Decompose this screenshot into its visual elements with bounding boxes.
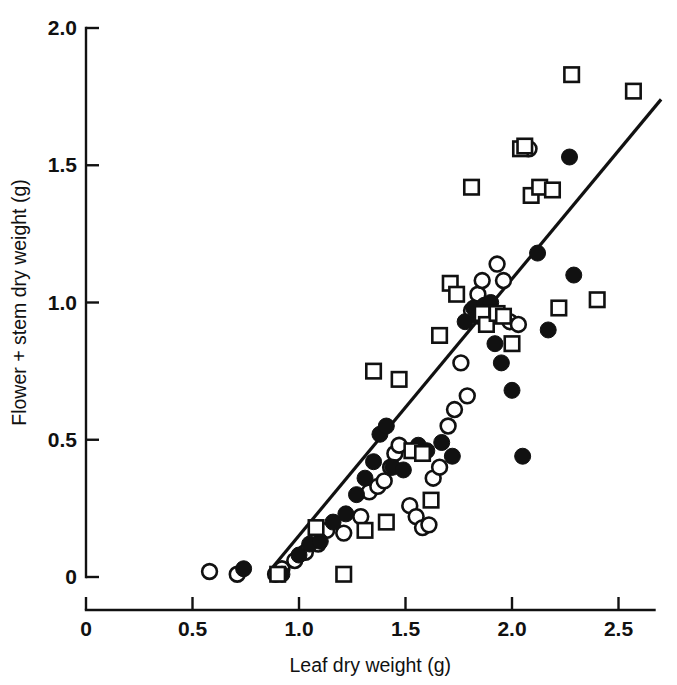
marker-open-circle bbox=[460, 388, 475, 403]
marker-open-circle bbox=[511, 317, 526, 332]
x-tick-label: 2.5 bbox=[604, 617, 634, 640]
marker-open-square bbox=[432, 328, 447, 343]
y-axis-title: Flower + stem dry weight (g) bbox=[8, 179, 30, 426]
series-open-circle bbox=[202, 141, 536, 581]
marker-open-circle bbox=[453, 355, 468, 370]
marker-filled-circle bbox=[562, 149, 578, 165]
y-tick-label: 1.5 bbox=[48, 153, 78, 176]
scatter-plot-figure: 00.51.01.52.000.51.01.52.02.5Leaf dry we… bbox=[0, 0, 677, 685]
marker-filled-circle bbox=[530, 245, 546, 261]
marker-open-square bbox=[518, 139, 533, 154]
y-tick-label: 0.5 bbox=[48, 428, 78, 451]
x-axis-title: Leaf dry weight (g) bbox=[290, 654, 452, 676]
marker-open-square bbox=[270, 567, 285, 582]
y-tick-label: 2.0 bbox=[48, 16, 77, 39]
y-tick-label: 1.0 bbox=[48, 291, 77, 314]
marker-filled-circle bbox=[493, 355, 509, 371]
x-tick-label: 1.5 bbox=[391, 617, 421, 640]
marker-filled-circle bbox=[236, 561, 252, 577]
marker-filled-circle bbox=[349, 487, 365, 503]
marker-open-circle bbox=[202, 564, 217, 579]
x-tick-label: 0 bbox=[80, 617, 92, 640]
marker-filled-circle bbox=[378, 418, 394, 434]
marker-open-square bbox=[449, 287, 464, 302]
marker-open-square bbox=[309, 520, 324, 535]
marker-filled-circle bbox=[395, 462, 411, 478]
marker-filled-circle bbox=[338, 506, 354, 522]
y-tick-label: 0 bbox=[65, 565, 77, 588]
marker-open-circle bbox=[432, 460, 447, 475]
x-tick-label: 0.5 bbox=[178, 617, 208, 640]
marker-filled-circle bbox=[444, 448, 460, 464]
marker-filled-circle bbox=[566, 267, 582, 283]
marker-open-circle bbox=[447, 402, 462, 417]
marker-filled-circle bbox=[434, 434, 450, 450]
regression-line bbox=[269, 99, 661, 571]
data-points-group bbox=[202, 67, 641, 582]
marker-open-square bbox=[590, 293, 605, 308]
marker-filled-circle bbox=[515, 448, 531, 464]
marker-filled-circle bbox=[540, 322, 556, 338]
marker-open-square bbox=[424, 493, 439, 508]
marker-open-square bbox=[415, 446, 430, 461]
marker-filled-circle bbox=[487, 336, 503, 352]
marker-open-square bbox=[392, 372, 407, 387]
marker-filled-circle bbox=[504, 382, 520, 398]
x-tick-label: 2.0 bbox=[497, 617, 526, 640]
marker-open-square bbox=[496, 309, 511, 324]
marker-filled-circle bbox=[366, 454, 382, 470]
marker-open-square bbox=[464, 180, 479, 195]
marker-open-square bbox=[366, 364, 381, 379]
marker-open-square bbox=[626, 84, 641, 99]
regression-line bbox=[269, 99, 661, 571]
marker-open-circle bbox=[422, 517, 437, 532]
marker-open-circle bbox=[475, 273, 490, 288]
x-tick-label: 1.0 bbox=[284, 617, 313, 640]
marker-filled-circle bbox=[357, 470, 373, 486]
axis-labels-group: 00.51.01.52.000.51.01.52.02.5Leaf dry we… bbox=[8, 16, 633, 676]
marker-open-square bbox=[505, 336, 520, 351]
marker-open-square bbox=[564, 67, 579, 82]
marker-open-square bbox=[358, 523, 373, 538]
marker-open-circle bbox=[496, 273, 511, 288]
marker-open-circle bbox=[490, 257, 505, 272]
marker-open-square bbox=[336, 567, 351, 582]
marker-open-circle bbox=[441, 419, 456, 434]
marker-open-square bbox=[379, 515, 394, 530]
chart-canvas: 00.51.01.52.000.51.01.52.02.5Leaf dry we… bbox=[0, 0, 677, 685]
marker-open-square bbox=[545, 183, 560, 198]
marker-open-square bbox=[552, 301, 567, 316]
